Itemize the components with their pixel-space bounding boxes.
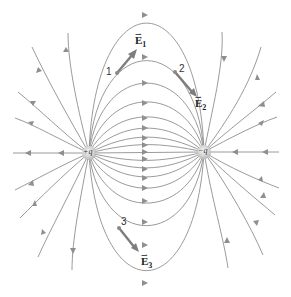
- point-3-label: 3: [121, 216, 127, 227]
- vector-e1-label: ⇀E1: [135, 34, 146, 49]
- positive-charge-label: +q: [83, 147, 92, 156]
- vector-e3-label: ⇀E3: [141, 255, 152, 270]
- field-points: [115, 70, 177, 230]
- vector-e2-label: ⇀E2: [195, 97, 206, 112]
- outer-field-lines-positive: [13, 33, 89, 270]
- point-2-label: 2: [179, 63, 185, 74]
- direction-arrows: [25, 12, 268, 286]
- negative-charge-label: −q: [198, 146, 207, 155]
- point-1-label: 1: [106, 66, 112, 77]
- connecting-field-lines: [89, 23, 204, 271]
